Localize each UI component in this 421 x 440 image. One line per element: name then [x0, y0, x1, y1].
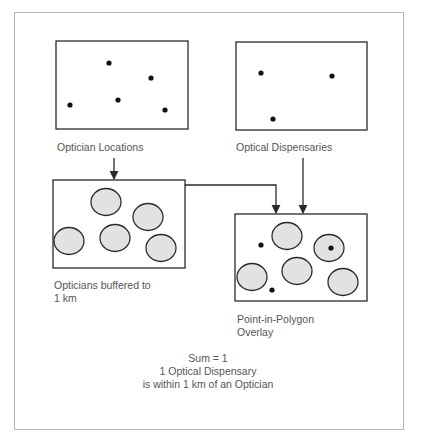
result-line2: 1 Optical Dispensary — [108, 365, 308, 378]
buffered-panel — [53, 180, 185, 268]
optician-point — [148, 75, 153, 80]
dispensary-point — [328, 245, 333, 250]
optician-point — [106, 60, 111, 65]
optician-point — [162, 107, 167, 112]
buffer-circle — [146, 235, 176, 262]
buffer-circle — [133, 204, 163, 231]
dispensary-point — [270, 116, 275, 121]
result-line3: is within 1 km of an Optician — [108, 378, 308, 391]
overlay-label-line2: Overlay — [237, 326, 273, 339]
dispensary-point — [258, 242, 263, 247]
buffer-circle — [91, 189, 121, 216]
dispensary-point — [258, 70, 263, 75]
optical-dispensaries-panel — [236, 42, 367, 130]
dispensary-point — [269, 287, 274, 292]
buffered-label-line2: 1 km — [54, 292, 77, 305]
buffer-circle — [272, 223, 302, 250]
buffer-circle — [328, 269, 358, 296]
buffer-circle — [237, 264, 267, 291]
dispensary-point — [329, 73, 334, 78]
buffer-circle — [54, 228, 84, 255]
optician-point — [67, 102, 72, 107]
buffer-circle — [282, 258, 312, 285]
optician-point — [115, 97, 120, 102]
buffer-circle — [100, 225, 130, 252]
overlay-panel — [235, 214, 367, 301]
optical-dispensaries-label: Optical Dispensaries — [236, 141, 332, 154]
optician-locations-panel — [56, 41, 188, 129]
overlay-label-line1: Point-in-Polygon — [237, 313, 314, 326]
arrow-buffer-to-overlay — [185, 185, 276, 213]
optician-locations-label: Optician Locations — [57, 141, 143, 154]
buffered-label-line1: Opticians buffered to — [54, 279, 151, 292]
result-sum: Sum = 1 — [108, 352, 308, 365]
